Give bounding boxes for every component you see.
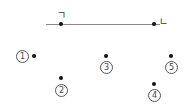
option-5-dot[interactable] xyxy=(169,54,173,58)
option-3-dot[interactable] xyxy=(104,54,108,58)
diagram-canvas: ㄱ ㄴ 1 2 3 4 5 xyxy=(0,0,187,109)
option-2-number: 2 xyxy=(59,86,64,95)
option-4-dot[interactable] xyxy=(152,82,156,86)
option-5-number: 5 xyxy=(169,63,174,72)
option-4-number: 4 xyxy=(152,91,157,100)
option-3-label[interactable]: 3 xyxy=(100,61,113,74)
option-4-label[interactable]: 4 xyxy=(148,89,161,102)
point-n-label: ㄴ xyxy=(159,16,168,28)
option-1-number: 1 xyxy=(20,52,25,61)
segment-line xyxy=(46,24,160,25)
point-g-dot xyxy=(59,22,63,26)
option-5-label[interactable]: 5 xyxy=(165,61,178,74)
point-n-dot xyxy=(152,22,156,26)
option-1-label[interactable]: 1 xyxy=(16,50,29,63)
point-g-label: ㄱ xyxy=(57,10,66,22)
option-1-dot[interactable] xyxy=(32,54,36,58)
option-3-number: 3 xyxy=(104,63,109,72)
option-2-label[interactable]: 2 xyxy=(55,84,68,97)
option-2-dot[interactable] xyxy=(59,76,63,80)
